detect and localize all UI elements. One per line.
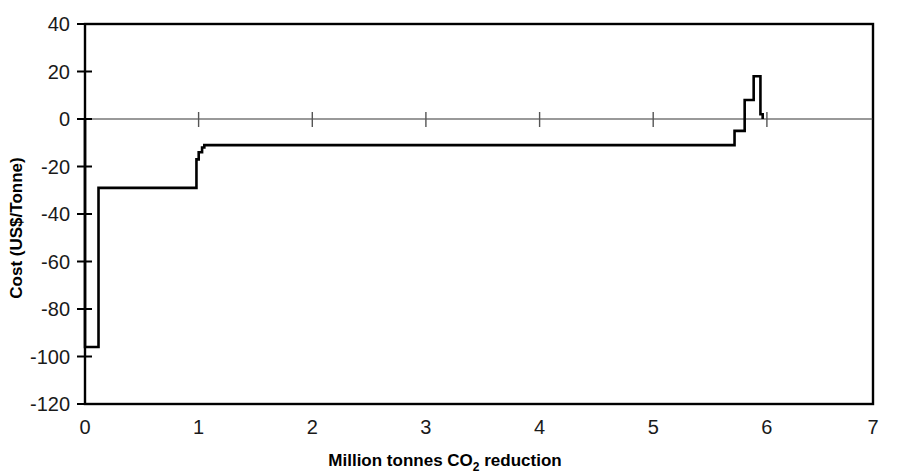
x-axis-title-suffix: reduction: [480, 451, 562, 470]
y-axis-title: Cost (US$/Tonne): [7, 157, 26, 298]
y-tick-labels: 40 20 0 -20 -40 -60 -80 -100 -120: [30, 13, 70, 415]
y-tick-label: 40: [48, 13, 70, 35]
cost-curve-line: [85, 76, 763, 347]
chart-figure: 40 20 0 -20 -40 -60 -80 -100 -120 0 1 2 …: [0, 0, 898, 475]
y-tick-label: 0: [59, 108, 70, 130]
x-axis-title-main: Million tonnes CO: [328, 451, 473, 470]
y-tick-label: -100: [30, 346, 70, 368]
x-tick-label: 3: [420, 416, 431, 438]
x-tick-label: 7: [867, 416, 878, 438]
x-tick-label: 5: [648, 416, 659, 438]
x-tick-label: 6: [761, 416, 772, 438]
abatement-cost-curve-chart: 40 20 0 -20 -40 -60 -80 -100 -120 0 1 2 …: [0, 0, 898, 475]
y-tick-label: -20: [41, 156, 70, 178]
x-tick-label: 0: [79, 416, 90, 438]
x-tick-label: 2: [307, 416, 318, 438]
x-tick-label: 4: [534, 416, 545, 438]
y-tick-label: -120: [30, 393, 70, 415]
x-tick-labels: 0 1 2 3 4 5 6 7: [79, 416, 878, 438]
y-tick-label: -80: [41, 298, 70, 320]
x-axis-title: Million tonnes CO2 reduction: [328, 451, 561, 474]
y-tick-label: 20: [48, 61, 70, 83]
x-tick-label: 1: [193, 416, 204, 438]
y-tick-label: -40: [41, 203, 70, 225]
y-tick-label: -60: [41, 251, 70, 273]
